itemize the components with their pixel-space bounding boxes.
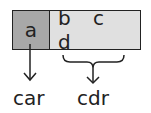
cdr-arrow-icon [87,68,99,83]
cdr-label: cdr [77,86,109,110]
car-label: car [13,86,44,110]
brace-icon [63,55,124,68]
car-arrow-icon [24,44,36,80]
